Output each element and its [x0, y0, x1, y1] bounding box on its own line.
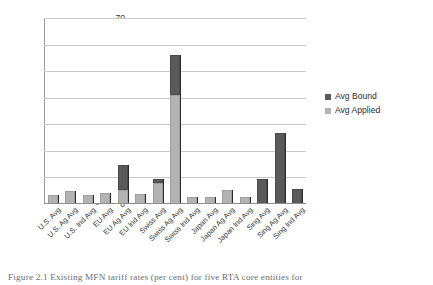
x-axis-line: [44, 203, 306, 204]
y-tick-mark: [96, 204, 99, 205]
legend-swatch-icon: [325, 108, 331, 114]
figure-container: 010203040506070 U.S. AvgU.S. Ag AvgU.S. …: [0, 0, 433, 285]
legend-label: Avg Applied: [335, 106, 380, 115]
plot-area: [44, 18, 306, 204]
bar-segment-avg-applied[interactable]: [153, 183, 163, 204]
legend-label: Avg Bound: [335, 92, 377, 101]
bar-segment-avg-bound[interactable]: [257, 179, 267, 204]
x-axis-category-labels: U.S. AvgU.S. Ag AvgU.S. Ind AvgEU AvgEU …: [44, 206, 306, 276]
legend-swatch-icon: [325, 94, 331, 100]
bar-segment-avg-bound[interactable]: [275, 133, 285, 204]
bar-segment-avg-applied[interactable]: [170, 95, 180, 204]
bar-segment-avg-bound[interactable]: [170, 55, 180, 95]
legend-item[interactable]: Avg Applied: [325, 106, 425, 115]
bar-segment-avg-bound[interactable]: [153, 179, 163, 182]
chart-legend: Avg BoundAvg Applied: [325, 92, 425, 120]
bar-segment-avg-bound[interactable]: [292, 189, 302, 204]
bar-segment-avg-bound[interactable]: [118, 165, 128, 190]
bar-segment-avg-applied[interactable]: [118, 190, 128, 204]
bar-series-container: [44, 18, 306, 204]
legend-item[interactable]: Avg Bound: [325, 92, 425, 101]
figure-caption: Figure 2.1 Existing MFN tariff rates (pe…: [8, 272, 428, 283]
bar-segment-avg-applied[interactable]: [222, 190, 232, 204]
